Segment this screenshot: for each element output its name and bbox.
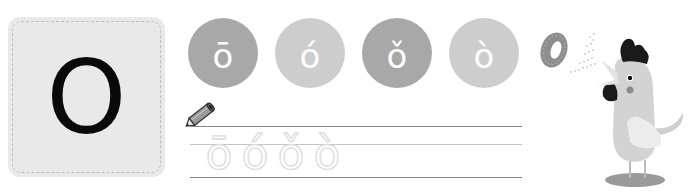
ground-shadow: [605, 173, 665, 187]
tone-circle-second[interactable]: ó: [275, 18, 345, 88]
rooster-cheek: [627, 87, 634, 94]
big-letter: O: [8, 33, 165, 163]
rooster-illustration: [535, 20, 690, 192]
trace-letter: ǒ: [275, 128, 307, 180]
tone-circle-fourth[interactable]: ò: [449, 18, 519, 88]
rooster-wing: [627, 117, 661, 149]
tone-circle-third[interactable]: ǒ: [362, 18, 432, 88]
tone-label: ō: [213, 39, 234, 73]
trace-letters: ō ó ǒ ò: [203, 128, 343, 180]
trace-letter: ó: [239, 128, 271, 180]
tone-label: ó: [300, 39, 321, 73]
writing-line-top: [190, 126, 522, 127]
rooster-comb: [620, 39, 648, 64]
tone-circle-first[interactable]: ō: [188, 18, 258, 88]
letter-o-icon: [536, 29, 572, 71]
rooster-eye: [628, 76, 632, 80]
letter-card: O: [8, 17, 165, 177]
trace-letter: ō: [203, 128, 235, 180]
sound-dots: [570, 33, 596, 73]
tone-label: ǒ: [387, 39, 408, 73]
trace-letter: ò: [311, 128, 343, 180]
tone-label: ò: [474, 39, 495, 73]
